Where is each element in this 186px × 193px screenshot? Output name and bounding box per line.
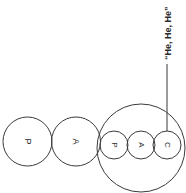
diagram-canvas: P A P A C “He, He, He” xyxy=(0,0,186,193)
node-label-a-small: A xyxy=(137,142,146,148)
node-label-p-large: P xyxy=(23,138,33,144)
node-label-p-small: P xyxy=(110,142,119,147)
diagram-svg: P A P A C “He, He, He” xyxy=(0,0,186,193)
group-circle xyxy=(97,104,185,192)
callout-label: “He, He, He” xyxy=(163,6,173,60)
node-label-c-small: C xyxy=(163,142,172,148)
node-label-a-large: A xyxy=(71,138,81,144)
